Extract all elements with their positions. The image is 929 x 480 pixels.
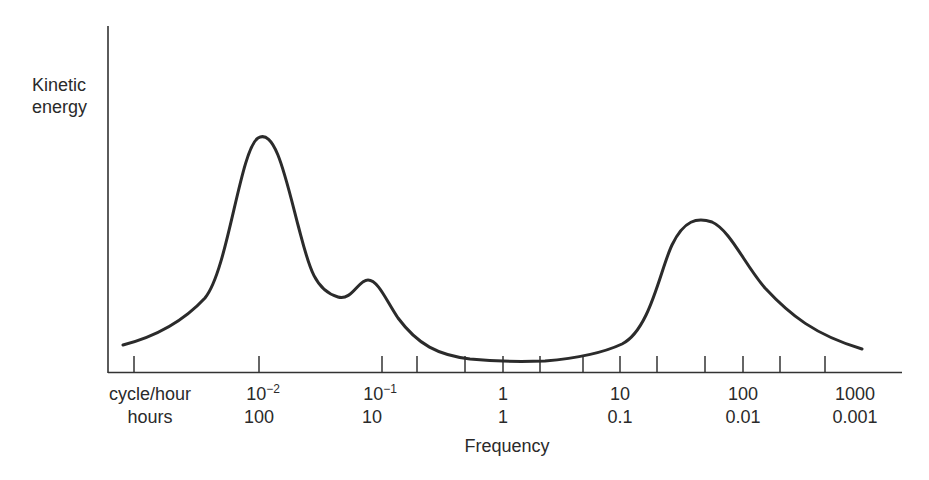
y-axis-label-line1: Kinetic <box>32 74 87 96</box>
x-axis-label: Frequency <box>464 435 549 457</box>
tick-label-freq-1e-2: 10−2 <box>246 383 280 405</box>
tick-label-freq-10: 10 <box>610 383 630 405</box>
tick-label-freq-1000: 1000 <box>835 383 875 405</box>
tick-label-period-10: 10 <box>362 406 382 428</box>
tick-label-freq-100: 100 <box>728 383 758 405</box>
tick-label-period-0.001: 0.001 <box>832 406 877 428</box>
tick-label-period-100: 100 <box>244 406 274 428</box>
energy-curve <box>123 137 862 362</box>
tick-label-freq-1: 1 <box>498 383 508 405</box>
y-axis-label: Kinetic energy <box>32 74 87 118</box>
row-label-period-unit: hours <box>127 406 172 428</box>
row-label-frequency-unit: cycle/hour <box>109 383 191 405</box>
y-axis-label-line2: energy <box>32 96 87 118</box>
tick-label-period-0.01: 0.01 <box>725 406 760 428</box>
tick-label-period-0.1: 0.1 <box>607 406 632 428</box>
tick-label-freq-1e-1: 10−1 <box>363 383 397 405</box>
tick-label-period-1: 1 <box>498 406 508 428</box>
